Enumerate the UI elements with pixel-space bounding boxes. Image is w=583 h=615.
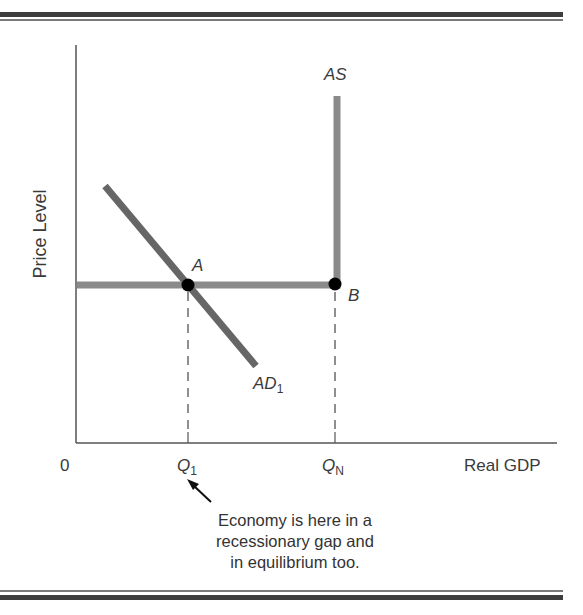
ad1-curve-label: AD1 (253, 375, 283, 395)
as-curve (77, 96, 337, 285)
qn-sub: N (335, 464, 344, 478)
point-a-marker (182, 279, 195, 292)
ad1-curve (105, 186, 256, 366)
qn-tick-label: QN (322, 457, 344, 477)
bottom-rule-light (0, 590, 563, 592)
qn-main: Q (322, 456, 335, 475)
as-curve-label: AS (324, 66, 347, 83)
annotation-line-3: in equilibrium too. (190, 552, 400, 573)
annotation-note: Economy is here in a recessionary gap an… (190, 510, 400, 573)
x-axis-text: Real GDP (464, 456, 541, 475)
annotation-line-1: Economy is here in a (190, 510, 400, 531)
point-a-label: A (192, 257, 203, 274)
as-label-text: AS (324, 65, 347, 84)
annotation-line-2: recessionary gap and (190, 531, 400, 552)
y-axis-label: Price Level (31, 164, 49, 304)
origin-label: 0 (60, 457, 69, 474)
ad-label-sub: 1 (277, 382, 284, 396)
ad-label-main: AD (253, 374, 277, 393)
annotation-arrow (194, 486, 211, 502)
q1-main: Q (177, 456, 190, 475)
q1-tick-label: Q1 (177, 457, 197, 477)
point-b-text: B (348, 286, 359, 305)
point-b-label: B (348, 287, 359, 304)
x-axis-label: Real GDP (464, 457, 541, 474)
origin-text: 0 (60, 456, 69, 475)
q1-sub: 1 (190, 464, 197, 478)
bottom-rule-dark (0, 595, 563, 600)
point-a-text: A (192, 256, 203, 275)
point-b-marker (329, 278, 342, 291)
